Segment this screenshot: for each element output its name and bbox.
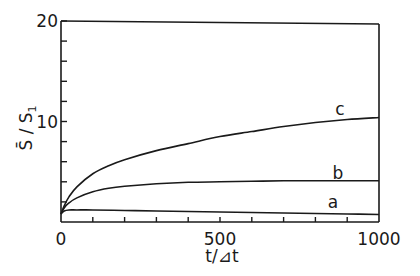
y-tick-label: 20 bbox=[36, 11, 58, 31]
svg-text:S̄ / S1: S̄ / S1 bbox=[15, 105, 39, 150]
x-axis-top bbox=[61, 21, 379, 24]
y-tick-labels: 1020 bbox=[36, 11, 58, 132]
y-axis-title-main: S̄ bbox=[15, 140, 36, 151]
chart: 05001000 1020 abc t/⊿t S̄ / S1 bbox=[0, 0, 420, 276]
series-labels: abc bbox=[328, 99, 345, 212]
series-label-c: c bbox=[335, 99, 344, 119]
y-axis-title-sub: S bbox=[16, 112, 36, 123]
series-label-a: a bbox=[328, 192, 338, 212]
y-axis-title-subscript: 1 bbox=[26, 105, 39, 112]
x-axis-title: t/⊿t bbox=[205, 246, 239, 266]
x-tick-label: 1000 bbox=[357, 229, 400, 249]
series-label-b: b bbox=[333, 163, 344, 183]
y-axis-title: S̄ / S1 bbox=[15, 105, 39, 150]
y-axis-title-sep: / bbox=[16, 123, 36, 140]
x-tick-label: 0 bbox=[56, 229, 67, 249]
y-tick-label: 10 bbox=[36, 112, 58, 132]
y-ticks bbox=[61, 21, 67, 202]
